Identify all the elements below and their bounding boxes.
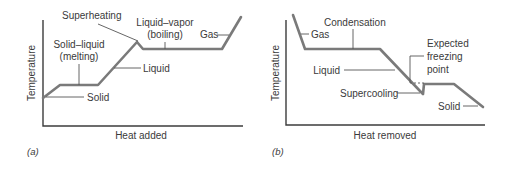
- panel-b-x-axis-label: Heat removed: [354, 130, 417, 141]
- panel-b-cooling-curve: Temperature Heat removed (b) Condensatio…: [270, 15, 485, 157]
- label-solid-b: Solid: [438, 101, 460, 112]
- panel-b-tag: (b): [272, 146, 284, 157]
- label-supercooling: Supercooling: [340, 88, 398, 99]
- heating-cooling-curves-figure: Temperature Heat added (a) Superheating …: [0, 0, 510, 169]
- label-liquid-b: Liquid: [313, 65, 340, 76]
- label-condensation: Condensation: [324, 17, 386, 28]
- label-superheating: Superheating: [62, 10, 122, 21]
- label-liquid-a: Liquid: [143, 63, 170, 74]
- panel-a-heating-curve: Temperature Heat added (a) Superheating …: [26, 10, 243, 157]
- label-expected: Expected: [427, 38, 469, 49]
- panel-b-y-axis-label: Temperature: [270, 44, 281, 101]
- leader-expected-freezing-point: [410, 56, 424, 83]
- label-solid-a: Solid: [87, 92, 109, 103]
- label-melting: (melting): [60, 51, 99, 62]
- label-solid-liquid: Solid–liquid: [53, 39, 104, 50]
- panel-a-x-axis-label: Heat added: [115, 130, 167, 141]
- label-liquid-vapor: Liquid–vapor: [136, 17, 194, 28]
- label-boiling: (boiling): [147, 29, 183, 40]
- panel-a-y-axis-label: Temperature: [26, 44, 37, 101]
- label-point: point: [427, 64, 449, 75]
- panel-a-tag: (a): [27, 146, 39, 157]
- label-gas-a: Gas: [200, 29, 218, 40]
- label-freezing: freezing: [427, 51, 463, 62]
- label-gas-b: Gas: [311, 29, 329, 40]
